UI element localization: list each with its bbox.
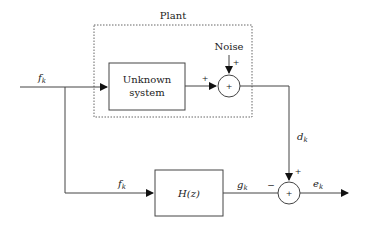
noise-label: Noise	[214, 41, 243, 52]
adaptive-filter-diagram: Plant fk Unknown system + Noise + + dk +…	[0, 0, 365, 226]
unknown-system-label-line1: Unknown	[123, 74, 172, 85]
bottom-sum-top-sign: +	[295, 167, 302, 176]
top-sum-left-sign: +	[202, 74, 209, 83]
plant-label: Plant	[160, 10, 186, 21]
input-label-bottom: fk	[117, 178, 126, 191]
bottom-sum-center-sign: +	[286, 189, 293, 198]
bottom-sum-left-sign: −	[267, 180, 275, 190]
input-label-top: fk	[37, 72, 46, 85]
top-sum-center-sign: +	[226, 82, 233, 91]
error-label: ek	[313, 178, 323, 191]
filter-label: H(z)	[177, 188, 200, 199]
desired-signal-line	[240, 86, 289, 180]
unknown-system-label-line2: system	[129, 87, 165, 98]
top-sum-noise-sign: +	[233, 58, 240, 67]
filter-output-label: gk	[237, 179, 248, 192]
desired-label: dk	[297, 131, 308, 144]
